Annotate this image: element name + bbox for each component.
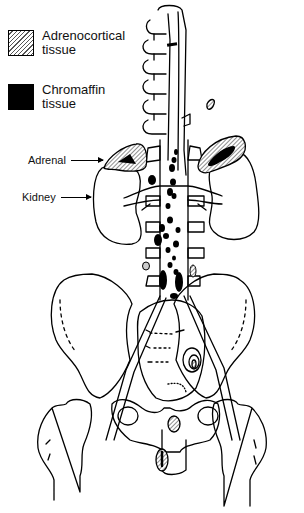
right-paravertebral-nodule: [190, 265, 196, 277]
sacrum: [138, 300, 205, 401]
legend-label-line1: Adrenocortical: [42, 29, 132, 43]
left-paravertebral-nodule: [143, 262, 150, 270]
callout-adrenal: Adrenal: [28, 154, 103, 166]
left-kidney: [94, 166, 142, 245]
legend-item-chromaffin: Chromaffin tissue: [8, 84, 132, 111]
right-femur: [212, 400, 266, 507]
right-obturator-foramen: [198, 407, 218, 425]
anatomical-diagram: Adrenocortical tissue Chromaffin tissue …: [0, 0, 304, 513]
anatomy-illustration: [0, 0, 304, 513]
legend-label-line2: tissue: [42, 97, 132, 111]
bladder-adrenocortical-rest: [168, 416, 180, 432]
left-iliac-wing: [51, 274, 132, 398]
legend-label-chromaffin: Chromaffin tissue: [42, 83, 132, 111]
left-femur: [38, 400, 92, 501]
solid-swatch-icon: [8, 84, 34, 110]
callout-label-kidney: Kidney: [22, 191, 56, 203]
legend-item-adrenocortical: Adrenocortical tissue: [8, 30, 132, 57]
accessory-adrenocortical-nodule: [207, 100, 215, 110]
legend-label-adrenocortical: Adrenocortical tissue: [42, 29, 132, 57]
callout-label-adrenal: Adrenal: [28, 154, 66, 166]
thoracic-vessel-mark: [167, 42, 177, 46]
right-iliac-wing: [174, 274, 255, 398]
legend-label-line1: Chromaffin: [42, 83, 132, 97]
hatched-swatch-icon: [8, 30, 34, 56]
aorta: [158, 6, 186, 176]
arrow-right-icon: [61, 197, 91, 198]
legend-label-line2: tissue: [42, 43, 132, 57]
callout-kidney: Kidney: [22, 191, 91, 203]
arrow-right-icon: [71, 160, 103, 161]
organ-of-zuckerkandl-swirl: [183, 348, 201, 372]
